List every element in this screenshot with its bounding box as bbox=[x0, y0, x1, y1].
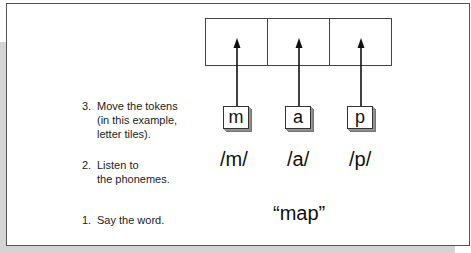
step-3-number: 3. bbox=[82, 99, 91, 113]
step-2-number: 2. bbox=[82, 158, 91, 172]
arrow-up-icon bbox=[296, 38, 303, 106]
letter-tile-p: p bbox=[347, 106, 373, 129]
arrow-up-icon bbox=[358, 38, 365, 106]
diagram-canvas: m a p 3. Move the tokens (in this exampl… bbox=[0, 0, 471, 253]
step-3-line-3: letter tiles). bbox=[97, 127, 178, 141]
step-2-line-1: Listen to bbox=[97, 158, 170, 172]
phoneme-a: /a/ bbox=[287, 147, 309, 171]
step-3-line-1: Move the tokens bbox=[97, 99, 178, 113]
step-2-line-2: the phonemes. bbox=[97, 172, 170, 186]
step-3-line-2: (in this example, bbox=[97, 113, 178, 127]
step-1-line-1: Say the word. bbox=[97, 213, 164, 227]
spoken-word: “map” bbox=[273, 201, 325, 225]
step-2-text: Listen to the phonemes. bbox=[97, 158, 170, 186]
step-1-text: Say the word. bbox=[97, 213, 164, 227]
phoneme-m: /m/ bbox=[220, 147, 248, 171]
step-1-number: 1. bbox=[82, 213, 91, 227]
arrow-up-icon bbox=[234, 38, 241, 106]
step-3-text: Move the tokens (in this example, letter… bbox=[97, 99, 178, 141]
letter-tile-a: a bbox=[285, 106, 311, 129]
phoneme-p: /p/ bbox=[349, 147, 371, 171]
letter-tile-m: m bbox=[223, 106, 249, 129]
